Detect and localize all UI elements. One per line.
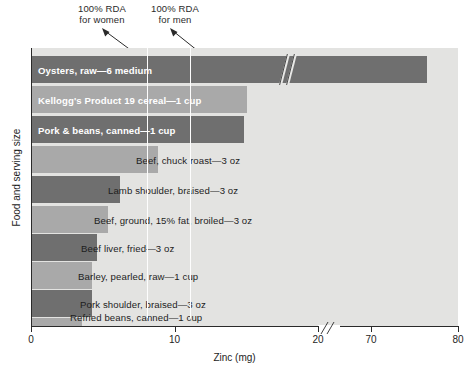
bar-lamb-shoulder[interactable]	[32, 176, 120, 203]
plot-area: Oysters, raw—6 medium Kellogg's Product …	[31, 48, 458, 326]
rda-line-women	[147, 48, 149, 318]
rda-line-men	[190, 48, 192, 318]
x-axis-title: Zinc (mg)	[0, 352, 469, 363]
zinc-bar-chart: 100% RDA for women 100% RDA for men Oyst…	[0, 0, 469, 375]
y-axis-title: Food and serving size	[11, 78, 22, 278]
bar-label-beef-chuck: Beef, chuck roast—3 oz	[136, 155, 240, 166]
x-tick-label-10: 10	[169, 334, 180, 345]
x-tick-20	[318, 326, 319, 332]
x-tick-label-80: 80	[452, 334, 463, 345]
bar-label-pork-shoulder: Pork shoulder, braised—3 oz	[80, 299, 206, 310]
x-tick-0	[31, 326, 32, 332]
annotation-rda-men: 100% RDA for men	[144, 3, 206, 25]
bar-label-pork-beans: Pork & beans, canned—1 cup	[38, 125, 175, 136]
annotation-rda-women: 100% RDA for women	[66, 3, 138, 25]
bar-label-oysters: Oysters, raw—6 medium	[38, 65, 152, 76]
x-tick-label-20: 20	[312, 334, 323, 345]
bar-label-beef-liver: Beef liver, fried—3 oz	[81, 243, 174, 254]
x-tick-80	[458, 326, 459, 332]
bar-label-kelloggs: Kellogg's Product 19 cereal—1 cup	[38, 95, 201, 106]
x-axis-line	[31, 326, 458, 327]
x-tick-label-0: 0	[28, 334, 34, 345]
bar-label-lamb-shoulder: Lamb shoulder, braised—3 oz	[108, 185, 238, 196]
x-tick-70	[371, 326, 372, 332]
x-tick-10	[175, 326, 176, 332]
bar-label-barley: Barley, pearled, raw—1 cup	[78, 271, 198, 282]
bar-label-beef-ground: Beef, ground, 15% fat, broiled—3 oz	[94, 215, 252, 226]
bar-label-refried-beans: Refried beans, canned—1 cup	[70, 312, 202, 323]
x-tick-label-70: 70	[365, 334, 376, 345]
